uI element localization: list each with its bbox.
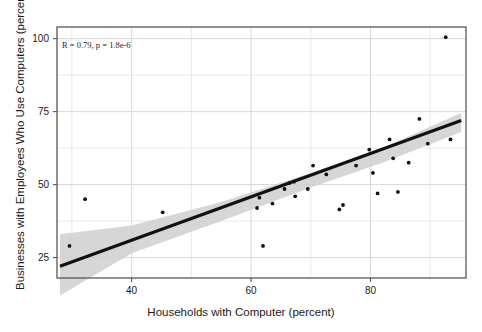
data-point bbox=[371, 171, 375, 175]
data-point bbox=[306, 187, 310, 191]
data-point bbox=[292, 180, 296, 184]
data-point bbox=[283, 187, 287, 191]
data-point bbox=[161, 210, 165, 214]
x-tick-label: 80 bbox=[355, 285, 385, 296]
x-tick-label: 60 bbox=[236, 285, 266, 296]
data-point bbox=[287, 181, 291, 185]
data-point bbox=[367, 148, 371, 152]
data-point bbox=[376, 192, 380, 196]
data-point bbox=[68, 244, 72, 248]
y-tick-label: 50 bbox=[23, 179, 49, 190]
data-point bbox=[449, 138, 453, 142]
data-point bbox=[391, 156, 395, 160]
data-point bbox=[258, 196, 262, 200]
data-point bbox=[396, 190, 400, 194]
data-point bbox=[255, 206, 259, 210]
data-point bbox=[444, 35, 448, 39]
data-point bbox=[311, 164, 315, 168]
x-tick-label: 40 bbox=[117, 285, 147, 296]
data-point bbox=[388, 138, 392, 142]
y-tick-label: 75 bbox=[23, 106, 49, 117]
data-point bbox=[354, 164, 358, 168]
data-point bbox=[271, 202, 275, 206]
data-point bbox=[426, 142, 430, 146]
data-point bbox=[418, 117, 422, 121]
correlation-annotation: R = 0.79, p = 1.8e-6 bbox=[62, 40, 131, 50]
data-point bbox=[324, 173, 328, 177]
data-point bbox=[83, 197, 87, 201]
data-point bbox=[261, 244, 265, 248]
data-point bbox=[293, 194, 297, 198]
y-tick-label: 100 bbox=[23, 33, 49, 44]
data-point bbox=[341, 203, 345, 207]
scatter-plot-figure: Households with Computer (percent) Busin… bbox=[0, 0, 482, 332]
data-point bbox=[407, 161, 411, 165]
data-point bbox=[338, 208, 342, 212]
y-tick-label: 25 bbox=[23, 252, 49, 263]
x-axis-title: Households with Computer (percent) bbox=[0, 306, 482, 318]
